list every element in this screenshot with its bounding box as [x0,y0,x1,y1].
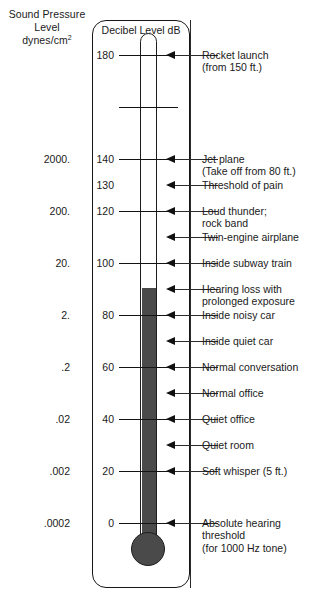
arrow-left-icon [166,233,175,241]
arrow-left-icon [166,155,175,163]
annotation-label: Normal office [202,387,264,400]
annotation-label: Loud thunder;rock band [202,205,267,230]
annotation-label-line: prolonged exposure [202,295,295,308]
scale-title: Decibel Level dB [92,24,190,36]
arrow-left-icon [166,259,175,267]
arrow-left-icon [166,519,175,527]
annotation-label-line: Inside noisy car [202,309,275,322]
annotation-label-line: Quiet room [202,439,254,452]
annotation-label: Hearing loss withprolonged exposure [202,283,295,308]
arrow-left-icon [166,441,175,449]
arrow-left-icon [166,181,175,189]
annotation-label: Threshold of pain [202,179,283,192]
annotation-label: Absolute hearingthreshold(for 1000 Hz to… [202,517,287,555]
annotation-label: Quiet office [202,413,255,426]
annotation-label-line: Normal office [202,387,264,400]
scale-tick-label: 100 [78,258,114,269]
scale-tick-label: 80 [78,310,114,321]
annotation-label-line: threshold [202,529,287,542]
annotation-label-line: Soft whisper (5 ft.) [202,465,287,478]
scale-tick-label: 60 [78,362,114,373]
sound-pressure-level-header: Sound Pressure Level dynes/cm2 [4,8,90,47]
annotation-label-line: Absolute hearing [202,517,287,530]
header-line-3: dynes/cm2 [4,34,90,47]
annotation-label: Rocket launch(from 150 ft.) [202,49,269,74]
header-units: dynes/cm [22,34,68,46]
annotation-label-line: Twin-engine airplane [202,231,299,244]
annotation-label-line: (Take off from 80 ft.) [202,165,296,178]
arrow-left-icon [166,363,175,371]
scale-tick-label: 20 [78,466,114,477]
annotation-label-line: Loud thunder; [202,205,267,218]
annotation-label-line: Inside subway train [202,257,292,270]
annotation-label-line: Inside quiet car [202,335,273,348]
sound-pressure-value: .0002 [0,518,70,529]
scale-tick-label: 40 [78,414,114,425]
annotation-label-line: Jet plane [202,153,296,166]
annotation-label-line: (for 1000 Hz tone) [202,542,287,555]
scale-tick-label: 120 [78,206,114,217]
annotation-label: Twin-engine airplane [202,231,299,244]
annotation-label-line: (from 150 ft.) [202,61,269,74]
annotation-label-line: Rocket launch [202,49,269,62]
sound-pressure-value: .02 [0,414,70,425]
annotation-label: Inside noisy car [202,309,275,322]
decibel-thermometer-diagram: Sound Pressure Level dynes/cm2 Decibel L… [0,0,314,602]
arrow-left-icon [166,467,175,475]
sound-pressure-value: 2000. [0,154,70,165]
annotation-label: Inside quiet car [202,335,273,348]
sound-pressure-value: .2 [0,362,70,373]
arrow-left-icon [166,337,175,345]
annotation-label: Jet plane(Take off from 80 ft.) [202,153,296,178]
arrow-left-icon [166,415,175,423]
annotation-label-line: Normal conversation [202,361,298,374]
annotation-label: Normal conversation [202,361,298,374]
scale-tick-label: 0 [78,518,114,529]
annotation-label-line: Hearing loss with [202,283,295,296]
annotation-label: Quiet room [202,439,254,452]
annotation-label-line: Quiet office [202,413,255,426]
sound-pressure-value: .002 [0,466,70,477]
arrow-left-icon [166,311,175,319]
annotation-rail [190,20,191,588]
annotation-label-line: Threshold of pain [202,179,283,192]
scale-tick-label: 140 [78,154,114,165]
sound-pressure-value: 20. [0,258,70,269]
sound-pressure-value: 200. [0,206,70,217]
scale-tick-label: 130 [78,180,114,191]
arrow-left-icon [166,207,175,215]
arrow-left-icon [166,389,175,397]
annotation-label: Inside subway train [202,257,292,270]
arrow-left-icon [166,51,175,59]
header-line-2: Level [4,21,90,34]
annotation-label: Soft whisper (5 ft.) [202,465,287,478]
annotation-label-line: rock band [202,217,267,230]
header-units-exponent: 2 [68,34,72,41]
arrow-left-icon [166,285,175,293]
scale-tick-label: 180 [78,50,114,61]
thermometer-bulb [131,532,165,566]
sound-pressure-value: 2. [0,310,70,321]
scale-tick [119,107,178,108]
header-line-1: Sound Pressure [4,8,90,21]
